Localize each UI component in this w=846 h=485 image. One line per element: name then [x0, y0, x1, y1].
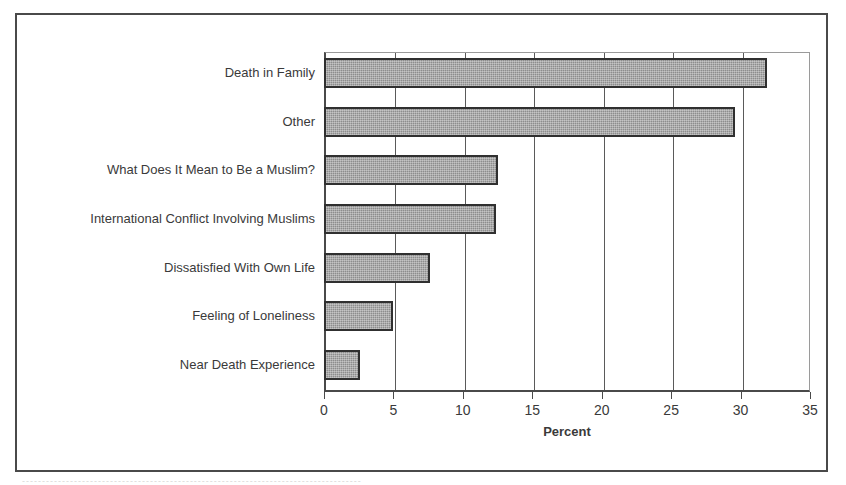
x-tick-20	[602, 392, 603, 399]
horizontal-bar-chart: Percent 05101520253035Death in FamilyOth…	[0, 0, 846, 485]
gridline-25	[673, 53, 674, 390]
category-label-3: International Conflict Involving Muslims	[90, 212, 315, 226]
x-tick-label-35: 35	[802, 402, 818, 418]
x-tick-5	[393, 392, 394, 399]
x-tick-15	[532, 392, 533, 399]
x-tick-label-15: 15	[524, 402, 540, 418]
bar-3	[324, 204, 496, 234]
x-tick-10	[463, 392, 464, 399]
x-tick-30	[741, 392, 742, 399]
bar-4	[324, 253, 430, 283]
category-label-2: What Does It Mean to Be a Muslim?	[107, 163, 315, 177]
x-tick-label-30: 30	[733, 402, 749, 418]
category-label-5: Feeling of Loneliness	[192, 309, 315, 323]
x-tick-35	[810, 392, 811, 399]
bar-2	[324, 155, 498, 185]
category-label-4: Dissatisfied With Own Life	[164, 261, 315, 275]
x-tick-label-5: 5	[390, 402, 398, 418]
bar-1	[324, 107, 735, 137]
x-tick-0	[324, 392, 325, 399]
x-tick-label-10: 10	[455, 402, 471, 418]
bar-6	[324, 350, 360, 380]
bar-5	[324, 301, 393, 331]
caption-fragment: ----------------------------------------…	[22, 476, 722, 485]
category-label-6: Near Death Experience	[180, 358, 315, 372]
bar-0	[324, 58, 767, 88]
x-tick-25	[671, 392, 672, 399]
gridline-20	[604, 53, 605, 390]
x-tick-label-25: 25	[663, 402, 679, 418]
gridline-30	[743, 53, 744, 390]
category-label-1: Other	[282, 115, 315, 129]
x-tick-label-0: 0	[320, 402, 328, 418]
x-axis-title: Percent	[324, 424, 810, 439]
category-label-0: Death in Family	[225, 66, 315, 80]
gridline-15	[534, 53, 535, 390]
x-tick-label-20: 20	[594, 402, 610, 418]
